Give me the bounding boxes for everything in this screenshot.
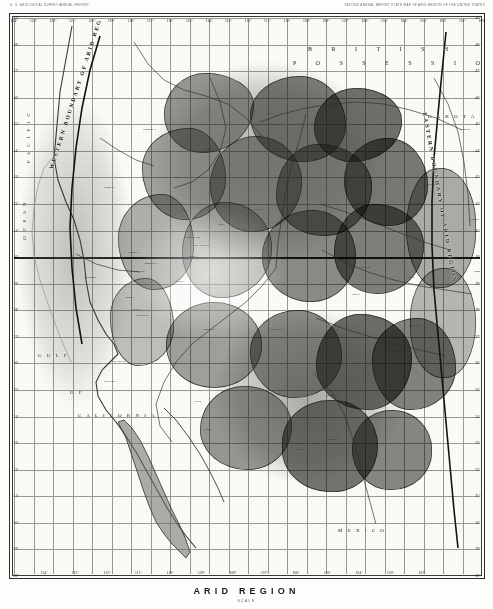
caption-subtitle: SCALE	[0, 599, 493, 603]
axis-tick-label: 113°	[225, 19, 232, 23]
axis-tick-label: 118°	[127, 19, 134, 23]
axis-tick-label: 102°	[439, 19, 446, 23]
place-label: Yellowstone L.	[295, 160, 311, 163]
axis-tick-label: 32°	[475, 468, 480, 472]
axis-tick-label: 119°	[108, 19, 115, 23]
area-label: O F	[70, 390, 84, 395]
place-label: Santa Fe	[326, 394, 335, 397]
place-label: Humboldt R.	[144, 262, 158, 265]
place-label: Snake R.	[213, 176, 222, 179]
axis-tick-label: 34°	[14, 415, 19, 419]
place-label: Canadian R.	[416, 360, 429, 363]
axis-tick-label: 48°	[475, 43, 480, 47]
caption-title: ARID REGION	[0, 586, 493, 596]
axis-tick-label: 102°	[418, 571, 425, 575]
map-frame: B R I T I S HP O S S E S S I O N SD A K …	[9, 13, 485, 579]
place-label: Utah L.	[189, 255, 197, 258]
place-label: Owens L.	[132, 308, 142, 311]
place-label: Columbia R.	[143, 128, 156, 131]
axis-tick-label: 106°	[292, 571, 299, 575]
header-credit-right: SECOND ANNUAL REPORT PLATE MAP OF ARID R…	[344, 3, 485, 8]
axis-tick-label: 46°	[14, 96, 19, 100]
axis-tick-label: 29°	[475, 547, 480, 551]
axis-tick-label: 44°	[14, 149, 19, 153]
axis-tick-label: 47°	[14, 69, 19, 73]
axis-tick-label: 103°	[387, 571, 394, 575]
axis-tick-label: 105°	[324, 571, 331, 575]
place-label: Los Angeles	[112, 360, 125, 363]
place-label: Rio Grande	[326, 438, 338, 441]
axis-tick-label: 30°	[475, 521, 480, 525]
axis-tick-label: 46°	[475, 96, 480, 100]
place-label: Gila R.	[194, 400, 202, 403]
axis-tick-label: 104°	[400, 19, 407, 23]
place-label: Pyramid L.	[128, 251, 140, 254]
axis-tick-label: 45°	[475, 122, 480, 126]
axis-tick-label: 107°	[261, 571, 268, 575]
area-label: G U L F	[38, 353, 69, 358]
axis-tick-label: 109°	[198, 571, 205, 575]
axis-tick-label: 39°	[14, 282, 19, 286]
place-label: Green R.	[254, 208, 263, 211]
axis-tick-label: 38°	[14, 308, 19, 312]
place-label: Carson Sink	[132, 270, 145, 273]
axis-tick-label: 111°	[135, 571, 142, 575]
place-label: Salmon R.	[204, 148, 215, 151]
axis-tick-label: 106°	[361, 19, 368, 23]
axis-tick-label: 117°	[147, 19, 154, 23]
place-label: STAKED PLAINS	[386, 350, 406, 353]
place-label: Laramie	[338, 258, 347, 261]
axis-tick-label: 30°	[14, 521, 19, 525]
axis-tick-label: 49°	[14, 16, 19, 20]
place-label: Salt Lake City	[194, 244, 209, 247]
axis-tick-label: 108°	[229, 571, 236, 575]
place-label: Bear L.	[218, 223, 226, 226]
axis-tick-label: 109°	[303, 19, 310, 23]
axis-tick-label: 31°	[475, 494, 480, 498]
place-label: Pecos R.	[360, 426, 369, 429]
axis-tick-label: 38°	[475, 308, 480, 312]
axis-tick-label: 101°	[459, 19, 466, 23]
axis-tick-label: 34°	[475, 415, 480, 419]
axis-tick-label: 110°	[283, 19, 290, 23]
place-label: Colorado R.	[203, 328, 216, 331]
place-label: Denver	[352, 293, 360, 296]
map-canvas: B R I T I S HP O S S E S S I O N SD A K …	[14, 18, 480, 574]
place-label: Omaha	[474, 270, 480, 273]
axis-tick-label: 103°	[420, 19, 427, 23]
axis-tick-label: 44°	[475, 149, 480, 153]
axis-tick-label: 120°	[88, 19, 95, 23]
place-label: Yankton	[470, 218, 479, 221]
map-caption: ARID REGION SCALE	[0, 586, 493, 603]
axis-tick-label: 112°	[244, 19, 251, 23]
axis-tick-label: 121°	[69, 19, 76, 23]
area-label: C A L I F O R N I A	[78, 413, 157, 418]
axis-tick-label: 122°	[49, 19, 56, 23]
axis-tick-label: 41°	[14, 229, 19, 233]
axis-tick-label: 36°	[475, 361, 480, 365]
axis-tick-label: 115°	[186, 19, 193, 23]
place-label: San Diego	[104, 380, 115, 383]
axis-tick-label: 47°	[475, 69, 480, 73]
axis-tick-label: 39°	[475, 282, 480, 286]
map-page: U. S. GEOLOGICAL SURVEY ANNUAL REPORT SE…	[0, 0, 493, 609]
place-label: Helena	[266, 112, 273, 115]
place-label: Bismarck	[460, 128, 470, 131]
axis-tick-label: 105°	[381, 19, 388, 23]
axis-tick-label: 31°	[14, 494, 19, 498]
place-label: Boise	[174, 176, 180, 179]
axis-tick-label: 36°	[14, 361, 19, 365]
axis-tick-label: 113°	[72, 571, 79, 575]
area-label: B R I T I S H	[308, 46, 457, 52]
place-label: Sevier L.	[175, 280, 185, 283]
axis-tick-label: 35°	[14, 388, 19, 392]
axis-tick-label: 35°	[475, 388, 480, 392]
axis-tick-label: 37°	[475, 335, 480, 339]
area-label: O C E A N	[22, 200, 27, 240]
axis-tick-label: 112°	[103, 571, 110, 575]
axis-tick-label: 108°	[322, 19, 329, 23]
axis-tick-label: 42°	[14, 202, 19, 206]
axis-tick-label: 104°	[355, 571, 362, 575]
axis-tick-label: 114°	[40, 571, 47, 575]
axis-tick-label: 110°	[166, 571, 173, 575]
